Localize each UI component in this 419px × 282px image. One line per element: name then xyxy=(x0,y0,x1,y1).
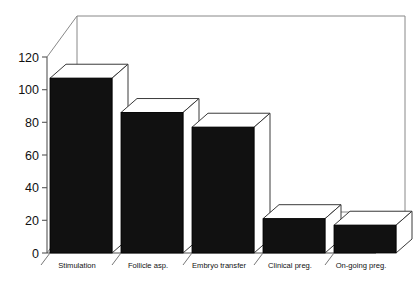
y-tick-label-20: 20 xyxy=(25,214,39,228)
category-label-0: Stimulation xyxy=(58,261,96,270)
category-leader-line-2 xyxy=(183,253,192,265)
y-axis-ticks xyxy=(42,57,47,253)
category-leader-line-0 xyxy=(41,253,50,265)
chart-canvas: 0 20 40 60 80 100 120 StimulationFollicl… xyxy=(0,0,419,282)
frame-top-left-diagonal xyxy=(47,16,77,57)
bar-front-face-4 xyxy=(334,225,396,253)
category-label-2: Embryo transfer xyxy=(192,261,246,270)
category-leader-line-3 xyxy=(254,253,263,265)
y-tick-label-120: 120 xyxy=(18,51,39,65)
category-label-1: Follicle asp. xyxy=(128,261,168,270)
category-label-4: On-going preg. xyxy=(336,261,387,270)
bar-front-face-0 xyxy=(50,78,112,253)
y-tick-label-60: 60 xyxy=(25,149,39,163)
bar-front-face-3 xyxy=(263,219,325,253)
bars-group xyxy=(50,64,412,253)
y-axis-tick-labels: 0 20 40 60 80 100 120 xyxy=(18,51,39,261)
y-tick-label-80: 80 xyxy=(25,116,39,130)
category-labels-group: StimulationFollicle asp.Embryo transferC… xyxy=(41,253,386,270)
category-leader-line-1 xyxy=(112,253,121,265)
bar-4[interactable] xyxy=(334,211,412,253)
bar-front-face-2 xyxy=(192,127,254,253)
bar-0[interactable] xyxy=(50,64,128,253)
bar-2[interactable] xyxy=(192,113,270,253)
bar-front-face-1 xyxy=(121,113,183,253)
category-leader-line-4 xyxy=(325,253,334,265)
bar-1[interactable] xyxy=(121,99,199,253)
y-tick-label-40: 40 xyxy=(25,181,39,195)
category-label-3: Clinical preg. xyxy=(268,261,312,270)
y-tick-label-0: 0 xyxy=(32,247,39,261)
bar-chart-figure: 0 20 40 60 80 100 120 StimulationFollicl… xyxy=(0,0,419,282)
y-tick-label-100: 100 xyxy=(18,83,39,97)
bar-3[interactable] xyxy=(263,205,341,253)
